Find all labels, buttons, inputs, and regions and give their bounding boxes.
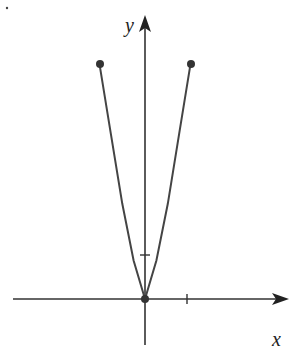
- x-axis-label: x: [272, 328, 281, 347]
- stray-dot: [6, 7, 8, 9]
- right-endpoint: [187, 60, 195, 68]
- origin-point: [141, 295, 149, 303]
- graph-canvas: [0, 0, 297, 347]
- left-endpoint: [96, 60, 104, 68]
- y-axis-label: y: [125, 14, 134, 37]
